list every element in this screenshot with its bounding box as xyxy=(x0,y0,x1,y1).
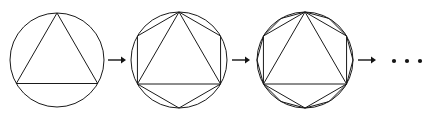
arrow-3-head xyxy=(371,57,376,64)
stage-3-circle xyxy=(257,12,353,108)
arrows-group xyxy=(108,57,376,64)
ellipsis-dot-2 xyxy=(405,59,409,63)
arrow-3 xyxy=(358,57,376,64)
stage-1-circle xyxy=(10,13,104,107)
stage-2-triangle xyxy=(137,12,220,84)
stage-1-triangle xyxy=(16,13,97,84)
arrow-2-head xyxy=(245,57,250,64)
stage-2-hexagon xyxy=(137,12,220,108)
arrow-1 xyxy=(108,57,126,64)
stage-2 xyxy=(131,12,227,108)
stage-2-circle xyxy=(131,12,227,108)
arrow-2 xyxy=(232,57,250,64)
figure-canvas xyxy=(0,0,428,118)
stage-1 xyxy=(10,13,104,107)
ellipsis-group xyxy=(392,59,422,63)
stage-3-hexagon xyxy=(263,12,346,108)
stages-group xyxy=(10,12,353,108)
ellipsis-dot-1 xyxy=(392,59,396,63)
arrow-1-head xyxy=(121,57,126,64)
ellipsis-dot-3 xyxy=(418,59,422,63)
stage-3 xyxy=(257,12,353,108)
polygon-approximation-figure xyxy=(0,0,428,118)
stage-3-triangle xyxy=(263,12,346,84)
